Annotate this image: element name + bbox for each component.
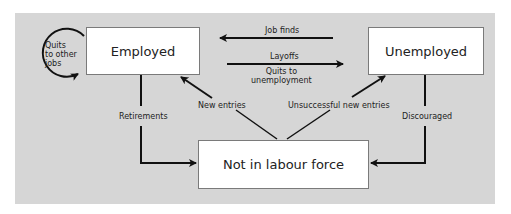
discouraged-label: Discouraged: [402, 112, 452, 121]
layoffs-label: Layoffs: [270, 52, 299, 61]
new-entries-label: New entries: [198, 101, 246, 110]
job-finds-label: Job finds: [265, 26, 299, 35]
unsuccessful-new-entries-arrow: [287, 110, 330, 139]
new-entries-arrow: [236, 110, 277, 139]
quits-to-unemployment-label: Quits to unemployment: [251, 67, 312, 85]
employed-box: Employed: [86, 27, 200, 75]
retirements-arrow: [141, 126, 196, 163]
retirements-label: Retirements: [119, 112, 168, 121]
quits-to-other-jobs-label: Quits to other jobs: [45, 41, 77, 68]
not-in-labour-force-label: Not in labour force: [223, 157, 344, 172]
unemployed-box: Unemployed: [368, 27, 484, 75]
unsuccessful-new-entries-label: Unsuccessful new entries: [288, 101, 390, 110]
not-in-labour-force-box: Not in labour force: [198, 140, 369, 189]
unemployed-label: Unemployed: [385, 44, 467, 59]
employed-label: Employed: [111, 44, 176, 59]
discouraged-arrow: [371, 126, 425, 163]
